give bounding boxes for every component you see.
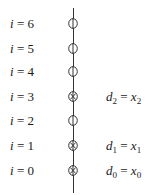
row-i-4: i = 4 [0, 62, 155, 82]
row-i-6: i = 6 [0, 14, 155, 34]
open-circle-icon [68, 115, 78, 126]
row-i-5: i = 5 [0, 39, 155, 59]
row-i-0: i = 0 d0 = x0 [0, 161, 155, 181]
index-label: i = 2 [10, 111, 34, 131]
circle-x-icon [68, 91, 78, 102]
assignment-equation: d2 = x2 [106, 87, 141, 107]
index-label: i = 6 [10, 14, 34, 34]
circle-x-icon [68, 165, 78, 176]
index-label: i = 0 [10, 161, 34, 181]
assignment-equation: d1 = x1 [106, 136, 141, 156]
circle-x-icon [68, 140, 78, 151]
assignment-equation: d0 = x0 [106, 161, 141, 181]
row-i-2: i = 2 [0, 111, 155, 131]
open-circle-icon [68, 18, 78, 29]
open-circle-icon [68, 66, 78, 77]
row-i-1: i = 1 d1 = x1 [0, 136, 155, 156]
open-circle-icon [68, 43, 78, 54]
index-label: i = 5 [10, 39, 34, 59]
row-i-3: i = 3 d2 = x2 [0, 87, 155, 107]
index-label: i = 3 [10, 87, 34, 107]
index-label: i = 1 [10, 136, 34, 156]
index-label: i = 4 [10, 62, 34, 82]
